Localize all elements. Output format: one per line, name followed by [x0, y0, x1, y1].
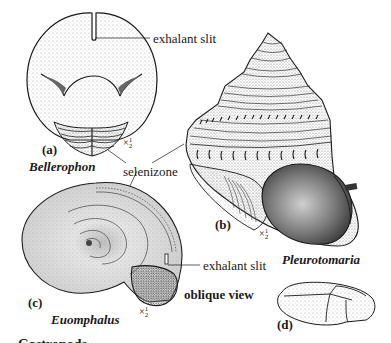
scale-den: 2 [145, 311, 149, 319]
scale-den: 2 [129, 142, 133, 150]
scale-c: ×12 [139, 306, 148, 319]
label-exhalant-slit-a: exhalant slit [153, 32, 216, 45]
panel-letter-c: (c) [28, 296, 42, 309]
euomphalus-shell [22, 183, 200, 306]
bellerophon-shell [27, 13, 157, 156]
genus-euomphalus: Euomphalus [51, 313, 120, 326]
scale-fraction: 12 [265, 228, 269, 241]
genus-bellerophon: Bellerophon [29, 160, 95, 173]
panel-letter-d: (d) [277, 318, 293, 331]
genus-pleurotomaria: Pleurotomaria [282, 253, 360, 266]
panel-letter-a: (a) [42, 143, 57, 156]
pleurotomaria-shell [186, 33, 358, 246]
scale-fraction: 12 [129, 137, 133, 150]
scale-b: ×12 [259, 228, 268, 241]
scale-a: ×12 [123, 137, 132, 150]
label-exhalant-slit-c: exhalant slit [203, 259, 266, 272]
scale-fraction: 12 [145, 306, 149, 319]
label-oblique-view: oblique view [184, 288, 254, 301]
panel-letter-b: (b) [215, 218, 231, 231]
label-selenizone: selenizone [123, 165, 178, 178]
scale-den: 2 [265, 233, 269, 241]
caption-fragment: Gastropods ... [18, 337, 101, 343]
